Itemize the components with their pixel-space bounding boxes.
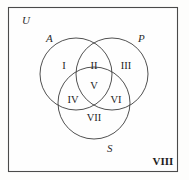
venn-diagram-canvas: U A P S I II III IV V VI VII VIII (0, 0, 189, 180)
region-label-vi: VI (110, 94, 122, 105)
set-label-a: A (45, 32, 53, 44)
region-label-iv: IV (67, 94, 78, 105)
universe-label: U (22, 14, 31, 26)
set-label-s: S (107, 142, 113, 154)
region-label-i: I (62, 60, 66, 71)
region-label-ii: II (91, 60, 98, 71)
set-label-p: P (137, 32, 145, 44)
region-label-vii: VII (87, 112, 102, 123)
venn-diagram-figure: U A P S I II III IV V VI VII VIII (0, 0, 189, 180)
region-label-v: V (90, 80, 98, 91)
region-label-viii: VIII (153, 155, 174, 167)
region-label-iii: III (121, 60, 132, 71)
